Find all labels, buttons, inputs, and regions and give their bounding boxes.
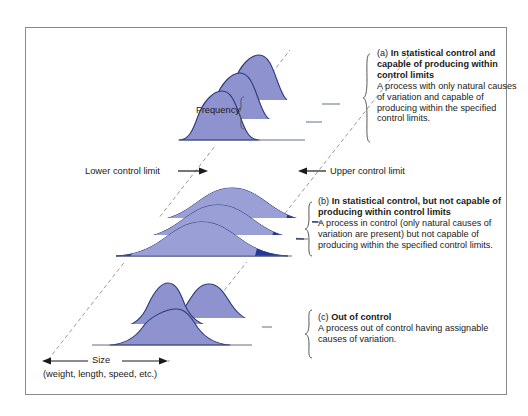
caption-b-heading-text: In statistical control, but not capable … (318, 196, 501, 217)
caption-c-body: A process out of control having assignab… (318, 323, 518, 345)
caption-b-body: A process in control (only natural cause… (318, 218, 518, 251)
size-axis-label: Size (92, 355, 110, 365)
caption-a-heading-text: In statistical control and capable of pr… (377, 48, 498, 80)
lower-control-limit-arrow (178, 168, 208, 175)
lower-control-limit-label: Lower control limit (85, 166, 160, 176)
caption-a-heading: (a) In statistical control and capable o… (377, 48, 523, 81)
caption-c: (c) Out of control A process out of cont… (318, 312, 518, 345)
caption-b-heading: (b) In statistical control, but not capa… (318, 196, 518, 218)
caption-c-heading-text: Out of control (331, 312, 391, 322)
caption-c-heading: (c) Out of control (318, 312, 518, 323)
caption-a-body: A process with only natural causes of va… (377, 81, 523, 125)
caption-a-brace (363, 54, 370, 142)
caption-b-tag: (b) (318, 196, 329, 206)
upper-control-limit-label: Upper control limit (330, 166, 405, 176)
size-units-label: (weight, length, speed, etc.) (43, 369, 157, 379)
group-c-curves (92, 283, 272, 360)
caption-a-tag: (a) (377, 48, 388, 58)
upper-control-limit-arrow (298, 168, 326, 175)
frequency-axis-label: Frequency (196, 105, 240, 115)
group-a-curves (179, 55, 340, 146)
spc-process-capability-figure: Frequency Lower control limit Upper cont… (0, 0, 528, 416)
caption-c-tag: (c) (318, 312, 329, 322)
group-b-curves (112, 188, 322, 262)
caption-b: (b) In statistical control, but not capa… (318, 196, 518, 251)
caption-c-brace (305, 310, 312, 358)
caption-a: (a) In statistical control and capable o… (377, 48, 523, 124)
